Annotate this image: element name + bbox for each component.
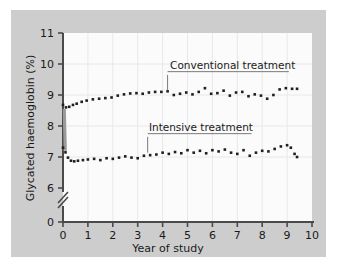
x-axis-tick-label: 0	[60, 229, 67, 242]
data-point	[174, 151, 177, 154]
data-point	[67, 156, 70, 159]
data-point	[286, 144, 289, 147]
data-point	[293, 153, 296, 156]
x-axis-label: Year of study	[131, 242, 204, 255]
data-point	[260, 94, 263, 97]
data-point	[180, 152, 183, 155]
data-point	[73, 160, 76, 163]
data-point	[62, 146, 65, 149]
data-point	[104, 97, 107, 100]
data-point	[68, 105, 71, 108]
data-point	[192, 151, 195, 154]
data-point	[230, 151, 233, 154]
data-point	[149, 154, 152, 157]
data-point	[255, 151, 258, 154]
data-point	[291, 88, 294, 91]
data-point	[191, 93, 194, 96]
data-point	[210, 92, 213, 95]
data-point	[173, 94, 176, 97]
x-axis-tick-label: 4	[159, 229, 166, 242]
data-point	[105, 157, 108, 160]
series-annotation-label: Intensive treatment	[149, 121, 253, 133]
data-point	[161, 151, 164, 154]
data-point	[64, 151, 67, 154]
data-point	[123, 93, 126, 96]
data-point	[285, 87, 288, 90]
data-point	[70, 159, 73, 162]
data-point	[77, 159, 80, 162]
data-point	[143, 154, 146, 157]
data-point	[222, 89, 225, 92]
data-point	[110, 96, 113, 99]
data-point	[216, 92, 219, 95]
data-point	[98, 97, 101, 100]
data-point	[129, 92, 132, 95]
y-axis-tick-label: 10	[40, 58, 54, 71]
data-point	[75, 102, 78, 105]
data-point	[80, 101, 83, 104]
data-point	[154, 91, 157, 94]
data-point	[247, 95, 250, 98]
x-axis-tick-label: 5	[184, 229, 191, 242]
data-point	[253, 93, 256, 96]
y-axis-tick-label: 7	[47, 151, 54, 164]
data-point	[136, 157, 139, 160]
data-point	[99, 159, 102, 162]
data-point	[72, 104, 75, 107]
data-point	[87, 158, 90, 161]
data-point	[92, 98, 95, 101]
y-axis-tick-label: 8	[47, 120, 54, 133]
y-axis-tick-label: 0	[47, 216, 54, 229]
data-point	[266, 97, 269, 100]
data-point	[290, 146, 293, 149]
data-point	[141, 92, 144, 95]
figure-container: 067891011012345678910Year of studyGlycat…	[0, 0, 337, 276]
data-point	[160, 91, 163, 94]
data-point	[130, 156, 133, 159]
data-point	[278, 88, 281, 91]
x-axis-tick-label: 7	[234, 229, 241, 242]
y-axis-label: Glycated haemoglobin (%)	[24, 55, 37, 202]
x-axis-tick-label: 2	[109, 229, 116, 242]
data-point	[241, 91, 244, 94]
data-point	[229, 94, 232, 97]
x-axis-tick-label: 6	[209, 229, 216, 242]
data-point	[93, 158, 96, 161]
data-point	[148, 91, 151, 94]
y-axis-tick-label: 6	[47, 182, 54, 195]
data-point	[168, 153, 171, 156]
data-point	[197, 91, 200, 94]
data-point	[118, 156, 121, 159]
y-axis-tick-label: 11	[40, 27, 54, 40]
data-point	[261, 150, 264, 153]
data-point	[199, 150, 202, 153]
data-point	[112, 158, 115, 161]
data-point	[186, 149, 189, 152]
x-axis-tick-label: 3	[134, 229, 141, 242]
data-point	[242, 149, 245, 152]
data-point	[82, 159, 85, 162]
series-annotation-label: Conventional treatment	[170, 59, 295, 71]
data-point	[211, 149, 214, 152]
data-point	[185, 91, 188, 94]
treatment-divergence-bar	[64, 109, 65, 151]
data-point	[155, 153, 158, 156]
data-point	[280, 145, 283, 148]
data-point	[204, 87, 207, 90]
x-axis-tick-label: 9	[284, 229, 291, 242]
x-axis-tick-label: 1	[84, 229, 91, 242]
data-point	[116, 94, 119, 97]
x-axis-tick-label: 10	[305, 229, 319, 242]
data-point	[62, 104, 65, 107]
data-point	[296, 156, 299, 159]
data-point	[166, 90, 169, 93]
data-point	[224, 148, 227, 151]
y-axis-tick-label: 9	[47, 89, 54, 102]
data-point	[273, 148, 276, 151]
x-axis-tick-label: 8	[259, 229, 266, 242]
data-point	[135, 92, 138, 95]
data-point	[248, 154, 251, 157]
data-point	[217, 150, 220, 153]
data-point	[272, 94, 275, 97]
data-point	[205, 152, 208, 155]
